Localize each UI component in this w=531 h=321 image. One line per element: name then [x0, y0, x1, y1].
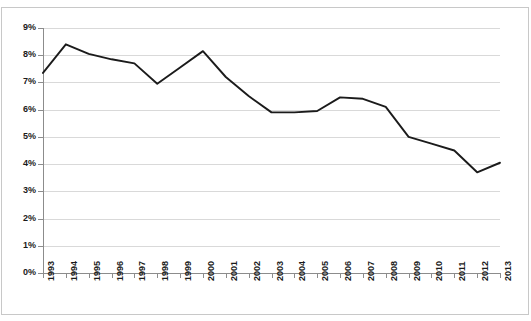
x-tick-mark-2011	[454, 273, 455, 278]
y-tick-label: 0%	[0, 268, 36, 277]
x-tick-mark-2002	[249, 273, 250, 278]
x-tick-label-2009: 2009	[413, 261, 422, 281]
y-tick-label: 3%	[0, 186, 36, 195]
x-tick-label-2001: 2001	[230, 261, 239, 281]
x-tick-mark-2010	[431, 273, 432, 278]
gridline-4	[43, 164, 500, 165]
gridline-8	[43, 55, 500, 56]
y-tick-label: 7%	[0, 77, 36, 86]
x-tick-label-1997: 1997	[138, 261, 147, 281]
gridline-5	[43, 137, 500, 138]
x-tick-label-2011: 2011	[458, 261, 467, 281]
y-tick-label: 2%	[0, 214, 36, 223]
x-tick-mark-2004	[294, 273, 295, 278]
x-tick-mark-2007	[363, 273, 364, 278]
y-tick-mark-3%	[38, 191, 43, 192]
x-tick-mark-2008	[386, 273, 387, 278]
y-tick-label: 4%	[0, 159, 36, 168]
x-tick-mark-2005	[317, 273, 318, 278]
x-tick-label-2008: 2008	[390, 261, 399, 281]
x-tick-label-2006: 2006	[344, 261, 353, 281]
gridline-7	[43, 82, 500, 83]
x-tick-mark-1998	[157, 273, 158, 278]
x-tick-mark-2001	[226, 273, 227, 278]
x-tick-label-1993: 1993	[47, 261, 56, 281]
x-tick-mark-2003	[272, 273, 273, 278]
y-tick-label: 8%	[0, 50, 36, 59]
y-tick-mark-7%	[38, 82, 43, 83]
y-tick-label: 5%	[0, 132, 36, 141]
x-tick-label-2013: 2013	[504, 261, 513, 281]
y-tick-mark-4%	[38, 164, 43, 165]
x-tick-label-2012: 2012	[481, 261, 490, 281]
x-tick-label-2004: 2004	[298, 261, 307, 281]
gridline-6	[43, 110, 500, 111]
y-tick-mark-6%	[38, 110, 43, 111]
y-tick-mark-5%	[38, 137, 43, 138]
x-tick-mark-1994	[66, 273, 67, 278]
x-tick-mark-1996	[112, 273, 113, 278]
gridline-2	[43, 219, 500, 220]
x-tick-label-1998: 1998	[161, 261, 170, 281]
y-axis-line	[43, 28, 44, 273]
gridline-1	[43, 246, 500, 247]
y-tick-mark-1%	[38, 246, 43, 247]
x-tick-mark-1995	[89, 273, 90, 278]
x-tick-mark-2000	[203, 273, 204, 278]
x-tick-label-2003: 2003	[276, 261, 285, 281]
x-tick-label-2000: 2000	[207, 261, 216, 281]
y-tick-label: 9%	[0, 23, 36, 32]
y-tick-mark-2%	[38, 219, 43, 220]
x-tick-mark-2006	[340, 273, 341, 278]
x-tick-label-1995: 1995	[93, 261, 102, 281]
x-tick-mark-1999	[180, 273, 181, 278]
y-tick-mark-9%	[38, 28, 43, 29]
x-tick-mark-2009	[409, 273, 410, 278]
gridline-3	[43, 191, 500, 192]
chart-frame	[1, 7, 529, 315]
y-tick-label: 6%	[0, 105, 36, 114]
y-tick-mark-8%	[38, 55, 43, 56]
x-tick-label-1996: 1996	[116, 261, 125, 281]
x-tick-label-1994: 1994	[70, 261, 79, 281]
gridline-9	[43, 28, 500, 29]
x-tick-label-2007: 2007	[367, 261, 376, 281]
x-tick-mark-2012	[477, 273, 478, 278]
x-tick-label-2010: 2010	[435, 261, 444, 281]
chart-container: 0%1%2%3%4%5%6%7%8%9% 1993199419951996199…	[0, 0, 531, 321]
x-tick-label-1999: 1999	[184, 261, 193, 281]
x-tick-mark-1997	[134, 273, 135, 278]
x-tick-mark-2013	[500, 273, 501, 278]
x-tick-label-2002: 2002	[253, 261, 262, 281]
y-tick-label: 1%	[0, 241, 36, 250]
x-tick-label-2005: 2005	[321, 261, 330, 281]
x-tick-mark-1993	[43, 273, 44, 278]
